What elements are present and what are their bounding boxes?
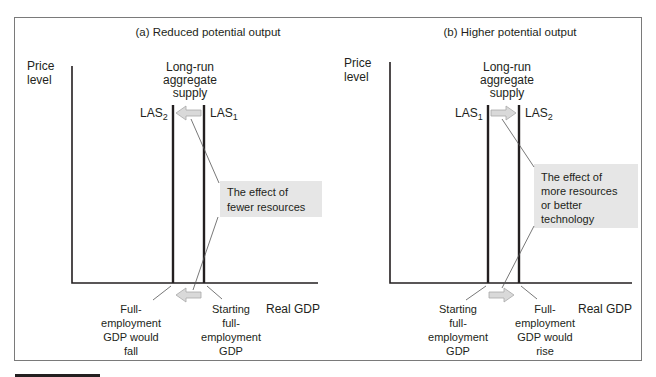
panel-a-shift-arrow-top [176, 106, 201, 120]
panel-a-title: (a) Reduced potential output [135, 26, 281, 38]
panel-b-title: (b) Higher potential output [444, 26, 578, 38]
panel-b-supply-label-2: aggregate [480, 73, 534, 87]
panel-b-callout-line4: technology [541, 213, 595, 225]
panel-a-right-note-1: Starting [212, 303, 250, 315]
panel-b-ylabel-line1: Price [344, 56, 372, 70]
panel-a-right-note-3: employment [201, 331, 261, 343]
panel-b-supply-label-3: supply [490, 86, 525, 100]
panel-b-las2-label: LAS2 [525, 106, 553, 122]
panel-b-left-note-3: employment [428, 331, 488, 343]
panel-b-right-note-4: rise [536, 345, 554, 357]
panel-a-leader-right-note [207, 286, 222, 299]
panel-a-supply-label-3: supply [173, 86, 208, 100]
panel-b-supply-label-1: Long-run [483, 60, 531, 74]
panel-a-las2-label: LAS2 [140, 106, 168, 122]
panel-a-supply-label-2: aggregate [163, 73, 217, 87]
panel-b-leader-left-note [466, 286, 486, 300]
panel-b-leader-right-note [521, 286, 537, 299]
panel-b-callout-line1: The effect of [541, 171, 603, 183]
panel-a-left-note-4: fall [124, 345, 138, 357]
panel-a-leader-bottom [193, 217, 218, 290]
panel-b-las1-label: LAS1 [455, 106, 483, 122]
panel-b-left-note-1: Starting [439, 303, 477, 315]
panel-a-supply-label-1: Long-run [166, 60, 214, 74]
panel-a-callout-line1: The effect of [227, 186, 289, 198]
panel-a: (a) Reduced potential output Price level… [27, 26, 322, 357]
panel-b-right-note-3: GDP would [517, 331, 572, 343]
panel-a-ylabel-line2: level [27, 73, 52, 87]
panel-a-right-note-4: GDP [219, 345, 243, 357]
panel-a-callout-line2: fewer resources [227, 201, 306, 213]
panel-a-xlabel: Real GDP [266, 302, 320, 316]
panel-b-left-note-2: full- [449, 317, 467, 329]
panel-a-left-note-3: GDP would [103, 331, 158, 343]
panel-a-right-note-2: full- [222, 317, 240, 329]
panel-b-shift-arrow-bottom [489, 288, 514, 302]
panel-a-left-note-1: Full- [120, 303, 142, 315]
figure-canvas: .ax{stroke:#231f20;stroke-width:1.6;fill… [0, 0, 656, 377]
panel-b-callout-line2: more resources [541, 185, 618, 197]
panel-a-shift-arrow-bottom [176, 288, 201, 302]
panel-b-shift-arrow-top [491, 106, 516, 120]
panel-a-leader-left-note [153, 286, 171, 300]
panel-a-ylabel-line1: Price [27, 59, 55, 73]
panel-b-ylabel-line2: level [344, 70, 369, 84]
panel-b: (b) Higher potential output Price level … [344, 26, 638, 357]
panel-a-left-note-2: employment [101, 317, 161, 329]
panel-b-left-note-4: GDP [446, 345, 470, 357]
panel-b-xlabel: Real GDP [578, 302, 632, 316]
panel-a-las1-label: LAS1 [210, 106, 238, 122]
panel-b-right-note-2: employment [515, 317, 575, 329]
panel-b-callout-line3: or better [541, 199, 582, 211]
panel-b-right-note-1: Full- [534, 303, 556, 315]
